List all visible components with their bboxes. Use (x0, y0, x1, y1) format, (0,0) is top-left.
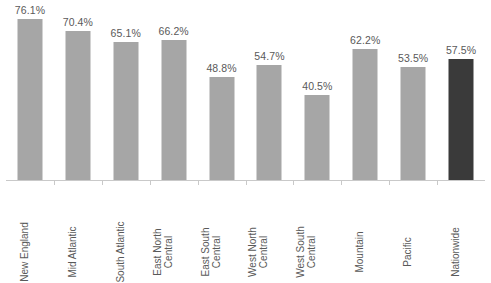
x-axis-tick (150, 181, 151, 185)
bar[interactable] (353, 49, 378, 181)
x-axis-tick-label: Mid Atlantic (67, 226, 78, 277)
x-axis-tick-label-group: Pacific (389, 186, 437, 252)
bar-value-label: 53.5% (398, 52, 428, 64)
x-axis-tick-label: West North Central (247, 227, 269, 277)
bar-group[interactable]: 40.5% (293, 0, 341, 181)
bar-group[interactable]: 70.4% (54, 0, 102, 181)
bar-group[interactable]: 48.8% (198, 0, 246, 181)
x-axis-tick (198, 181, 199, 185)
bar[interactable] (401, 67, 426, 181)
x-axis-tick (437, 181, 438, 185)
bar[interactable] (449, 59, 474, 181)
x-axis-tick (102, 181, 103, 185)
bar-value-label: 57.5% (446, 44, 476, 56)
bar-group[interactable]: 53.5% (389, 0, 437, 181)
x-axis-tick-label: Pacific (402, 237, 413, 266)
bar-value-label: 54.7% (254, 50, 284, 62)
x-axis-tick-label-group: New England (6, 186, 54, 252)
x-axis-tick-label-group: South Atlantic (102, 186, 150, 252)
x-axis-tick (54, 181, 55, 185)
bar-value-label: 76.1% (15, 4, 45, 16)
bar-group[interactable]: 65.1% (102, 0, 150, 181)
plot-area: 76.1%70.4%65.1%66.2%48.8%54.7%40.5%62.2%… (6, 0, 485, 181)
bar[interactable] (161, 40, 186, 181)
x-axis-tick-label: East North Central (152, 228, 174, 275)
x-axis-tick (246, 181, 247, 185)
bar[interactable] (209, 77, 234, 181)
x-axis-tick (293, 181, 294, 185)
x-axis-tick-label: Nationwide (450, 227, 461, 276)
x-axis-tick-label: South Atlantic (115, 221, 126, 282)
x-axis-tick-label: New England (19, 222, 30, 281)
bar-group[interactable]: 62.2% (341, 0, 389, 181)
x-axis-tick-label: West South Central (295, 226, 317, 278)
x-axis-tick-label-group: East South Central (198, 186, 246, 252)
bar-group[interactable]: 57.5% (437, 0, 485, 181)
x-axis-tick-label-group: Nationwide (437, 186, 485, 252)
x-axis-tick-label-group: East North Central (150, 186, 198, 252)
bar-value-label: 62.2% (350, 34, 380, 46)
bar-group[interactable]: 54.7% (246, 0, 294, 181)
x-axis-labels: New EnglandMid AtlanticSouth AtlanticEas… (6, 186, 485, 252)
x-axis-tick-label: Mountain (354, 231, 365, 272)
bar-value-label: 40.5% (302, 80, 332, 92)
bar-group[interactable]: 66.2% (150, 0, 198, 181)
x-axis-tick-label-group: Mountain (341, 186, 389, 252)
bar[interactable] (113, 42, 138, 181)
bar[interactable] (305, 95, 330, 181)
bar-value-label: 48.8% (206, 62, 236, 74)
x-axis-tick (341, 181, 342, 185)
bar-value-label: 70.4% (63, 16, 93, 28)
x-axis-tick-label-group: Mid Atlantic (54, 186, 102, 252)
bar[interactable] (65, 31, 90, 181)
bar[interactable] (257, 65, 282, 181)
bar-group[interactable]: 76.1% (6, 0, 54, 181)
x-axis-tick (389, 181, 390, 185)
bar[interactable] (17, 19, 42, 181)
x-axis-tick-label-group: West North Central (246, 186, 294, 252)
bar-value-label: 66.2% (158, 25, 188, 37)
bar-value-label: 65.1% (111, 27, 141, 39)
x-axis-tick-label: East South Central (200, 228, 222, 277)
x-axis-tick-label-group: West South Central (293, 186, 341, 252)
